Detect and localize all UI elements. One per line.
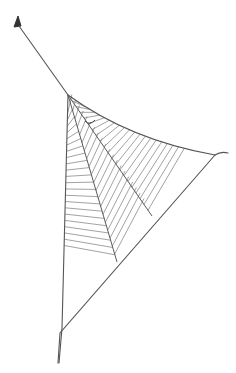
left-edge-thread bbox=[59, 95, 68, 363]
capture-spiral-thread bbox=[89, 138, 102, 166]
capture-spiral-thread bbox=[84, 115, 99, 118]
capture-spiral-thread bbox=[66, 168, 89, 171]
capture-spiral-thread bbox=[91, 144, 106, 175]
capture-spiral-thread bbox=[101, 166, 122, 207]
capture-spiral-thread bbox=[67, 131, 79, 138]
capture-spiral-thread bbox=[80, 116, 87, 134]
capture-spiral-thread bbox=[65, 208, 102, 211]
capture-spiral-thread bbox=[144, 147, 178, 205]
capture-spiral-thread bbox=[66, 182, 94, 183]
capture-spiral-thread bbox=[96, 123, 114, 136]
dragline bbox=[19, 26, 68, 95]
web-frame bbox=[14, 16, 228, 363]
capture-spiral-thread bbox=[65, 233, 111, 240]
capture-spiral-thread bbox=[105, 177, 128, 223]
capture-spiral-thread bbox=[67, 146, 83, 151]
capture-spiral-thread bbox=[124, 138, 151, 175]
top-edge-thread bbox=[68, 95, 215, 155]
capture-spiral-thread bbox=[120, 136, 145, 170]
capture-spiral-thread bbox=[66, 175, 91, 177]
capture-spiral-thread bbox=[66, 153, 85, 157]
anchor-mark-icon bbox=[14, 16, 21, 27]
capture-spiral-thread bbox=[103, 171, 125, 214]
web-drawing bbox=[0, 0, 236, 373]
capture-spiral-thread bbox=[67, 139, 81, 145]
web-stripes bbox=[64, 94, 184, 254]
capture-spiral-thread bbox=[65, 220, 106, 225]
radial-thread-middle bbox=[68, 95, 152, 216]
capture-spiral-thread bbox=[108, 182, 133, 230]
capture-spiral-thread bbox=[64, 239, 112, 247]
spider-web-illustration: Hand-drawn sketch of a triangular spider… bbox=[0, 0, 236, 373]
capture-spiral-thread bbox=[104, 128, 124, 147]
right-anchor-thread bbox=[215, 152, 228, 155]
capture-spiral-thread bbox=[110, 188, 136, 239]
capture-spiral-thread bbox=[67, 124, 76, 132]
capture-spiral-thread bbox=[66, 160, 87, 164]
capture-spiral-thread bbox=[65, 227, 109, 233]
capture-spiral-thread bbox=[148, 148, 184, 210]
right-edge-thread bbox=[58, 155, 215, 363]
capture-spiral-thread bbox=[65, 214, 104, 218]
capture-spiral-thread bbox=[115, 198, 144, 254]
capture-spiral-thread bbox=[140, 145, 173, 198]
capture-spiral-thread bbox=[100, 125, 119, 141]
capture-spiral-thread bbox=[132, 142, 162, 187]
capture-spiral-thread bbox=[94, 149, 110, 182]
capture-spiral-thread bbox=[65, 195, 97, 196]
capture-spiral-thread bbox=[65, 202, 100, 204]
capture-spiral-thread bbox=[128, 140, 156, 181]
